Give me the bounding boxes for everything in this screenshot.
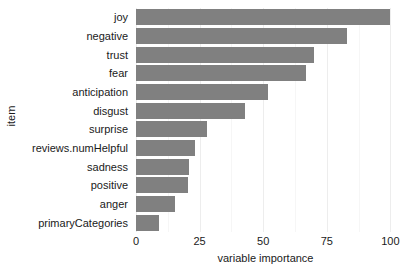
bar-row [136, 215, 159, 231]
y-tick-label: reviews.numHelpful [32, 140, 128, 156]
bar-row [136, 103, 245, 119]
bar-row [136, 177, 188, 193]
bar-row [136, 47, 314, 63]
y-axis-tick-labels: joynegativetrustfearanticipationdisgusts… [0, 8, 132, 232]
x-axis-title: variable importance [136, 252, 395, 264]
y-tick-label: negative [86, 28, 128, 44]
x-tick-label: 50 [257, 234, 269, 248]
x-tick-label: 25 [193, 234, 205, 248]
bar [136, 215, 159, 231]
x-tick-label: 75 [321, 234, 333, 248]
bar-row [136, 159, 189, 175]
plot-area [136, 8, 398, 232]
bars-layer [136, 8, 398, 232]
y-tick-label: disgust [93, 103, 128, 119]
y-tick-label: primaryCategories [38, 215, 128, 231]
bar [136, 47, 314, 63]
bar [136, 84, 268, 100]
bar [136, 159, 189, 175]
y-tick-label: fear [109, 65, 128, 81]
bar [136, 177, 188, 193]
bar [136, 140, 195, 156]
bar [136, 103, 245, 119]
x-axis-tick-labels: 0255075100 [136, 234, 398, 248]
y-tick-label: sadness [87, 159, 128, 175]
bar-row [136, 196, 175, 212]
bar-row [136, 121, 207, 137]
bar [136, 9, 390, 25]
bar-row [136, 9, 390, 25]
bar-row [136, 84, 268, 100]
bar [136, 28, 347, 44]
y-tick-label: anticipation [72, 84, 128, 100]
bar-row [136, 65, 306, 81]
y-tick-label: joy [114, 9, 128, 25]
bar-row [136, 140, 195, 156]
x-axis-title-text: variable importance [218, 252, 314, 264]
y-tick-label: positive [91, 177, 128, 193]
bar [136, 121, 207, 137]
bar [136, 196, 175, 212]
y-tick-label: anger [100, 196, 128, 212]
y-tick-label: surprise [89, 121, 128, 137]
bar [136, 65, 306, 81]
bar-chart: item joynegativetrustfearanticipationdis… [0, 0, 412, 276]
x-tick-label: 100 [381, 234, 399, 248]
bar-row [136, 28, 347, 44]
y-tick-label: trust [107, 47, 128, 63]
x-tick-label: 0 [133, 234, 139, 248]
